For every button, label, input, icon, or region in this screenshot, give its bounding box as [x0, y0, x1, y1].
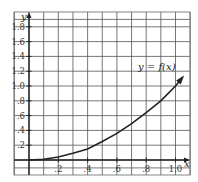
y-axis-arrow-icon [27, 12, 32, 18]
y-tick-label: 1.0 [11, 81, 25, 91]
y-axis-label: y [20, 11, 27, 22]
y-tick-label: 1.4 [11, 51, 25, 61]
curve-line [29, 77, 183, 160]
y-tick-label: .2 [17, 140, 25, 150]
tick-labels: .2.4.6.81.0.2.4.6.81.01.21.41.61.8 [11, 22, 182, 174]
y-tick-label: 1.6 [11, 37, 25, 47]
y-tick-label: .6 [17, 111, 25, 121]
x-tick-label: .4 [84, 164, 92, 174]
x-tick-label: 1.0 [169, 164, 183, 174]
x-tick-label: .8 [142, 164, 150, 174]
grid [14, 12, 190, 175]
x-axis-label: x [184, 158, 190, 169]
chart: .2.4.6.81.0.2.4.6.81.01.21.41.61.8 y = f… [0, 0, 198, 182]
y-tick-label: 1.8 [11, 22, 25, 32]
y-tick-label: .8 [17, 96, 25, 106]
x-tick-label: .6 [113, 164, 121, 174]
curve-label: y = f(x) [137, 61, 176, 72]
y-tick-label: 1.2 [11, 66, 25, 76]
y-tick-label: .4 [17, 125, 25, 135]
x-tick-label: .2 [54, 164, 62, 174]
